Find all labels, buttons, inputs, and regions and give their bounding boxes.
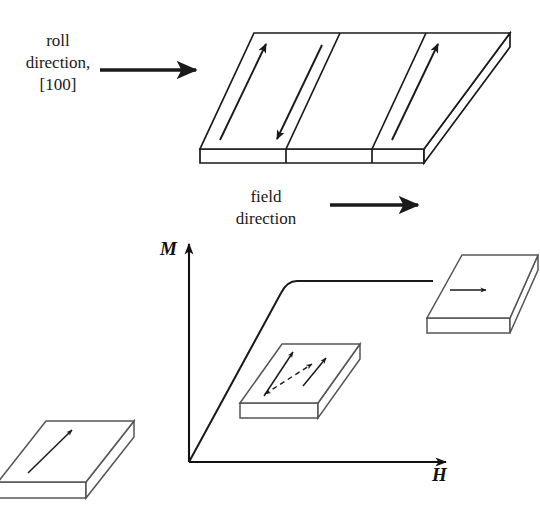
figure-root: roll direction, [100] field direction M … (0, 0, 540, 516)
roll-direction-label: roll direction, [100] (10, 30, 106, 96)
inset-slab-rotation (240, 344, 360, 418)
y-axis-label: M (160, 238, 177, 260)
inset-slab-saturation (427, 255, 538, 333)
x-axis-label: H (432, 464, 447, 486)
field-direction-label: field direction (214, 186, 318, 230)
inset-slab-remanence (0, 421, 134, 498)
domain-slab (200, 33, 510, 163)
